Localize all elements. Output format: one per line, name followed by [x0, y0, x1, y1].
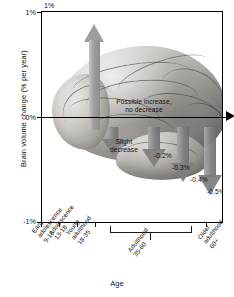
data-label-2: -0.3% [172, 164, 190, 171]
x-axis-title: Age [0, 279, 234, 288]
arrow-shaft [177, 127, 189, 165]
data-label-4: -0.5% [207, 188, 223, 195]
decrease-arrow-down-icon-3 [171, 127, 195, 183]
zero-baseline-axis [41, 117, 230, 118]
up-arrow-value-label: 1% [44, 1, 54, 10]
data-label-3: -0.4% [190, 176, 208, 183]
zero-axis-arrow-head-icon [226, 111, 234, 121]
arrow-shaft [204, 127, 216, 177]
y-tick-label-zero: 0% [10, 113, 36, 122]
y-tick-label-bottom: -1% [10, 217, 36, 226]
annotation-slight-decrease: Slight decrease [95, 138, 153, 154]
decrease-arrow-down-icon-4 [198, 127, 222, 197]
y-tick-label-top: 1% [10, 8, 36, 17]
brain-volume-change-figure: Brain volume change (% per year) 1% 0% -… [0, 0, 234, 297]
y-axis-title: Brain volume change (% per year) [19, 24, 28, 194]
annotation-possible-increase: Possible increase, no decrease [99, 98, 189, 114]
data-label-1: -0.2% [154, 152, 172, 159]
